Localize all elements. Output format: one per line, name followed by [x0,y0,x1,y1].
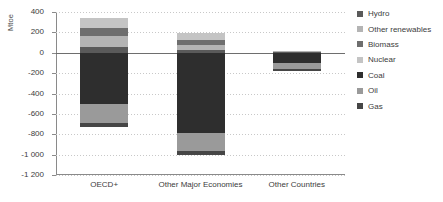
legend-swatch-coal [357,72,363,78]
legend-item-label: Other renewables [368,25,431,34]
x-axis-label-2: Other Countries [249,180,345,189]
legend-item[interactable]: Gas [357,98,443,113]
bar-segment[interactable] [177,151,225,155]
bar-stack[interactable] [80,12,128,175]
bar-segment[interactable] [273,69,321,71]
legend-item-label: Biomass [368,40,399,49]
legend-item[interactable]: Coal [357,68,443,83]
y-axis-tick [52,175,56,176]
bar-segment[interactable] [80,28,128,36]
legend-item-label: Gas [368,102,383,111]
y-axis-tick-label: -600 [28,110,44,118]
legend-item[interactable]: Hydro [357,6,443,21]
plot-area: OECD+Other Major EconomiesOther Countrie… [56,12,345,175]
chart-legend: HydroOther renewablesBiomassNuclearCoalO… [357,6,443,114]
bar-segment[interactable] [177,40,225,45]
bar-segment[interactable] [80,36,128,47]
bar-segment[interactable] [177,133,225,150]
legend-swatch-nuclear [357,57,363,63]
legend-item-label: Nuclear [368,55,396,64]
bar-segment[interactable] [80,123,128,127]
bar-segment[interactable] [177,45,225,51]
legend-item-label: Coal [368,71,384,80]
y-axis-tick [52,12,56,13]
y-axis-tick [52,114,56,115]
y-axis-tick-label: 200 [31,28,44,36]
y-axis-tick-label: -800 [28,130,44,138]
y-axis-tick-label: -1 000 [21,151,44,159]
bar-segment[interactable] [273,53,321,63]
y-axis-tick-label: -400 [28,90,44,98]
legend-swatch-oil [357,88,363,94]
bar-stack[interactable] [177,12,225,175]
y-axis-tick [52,134,56,135]
bar-segment[interactable] [80,104,128,123]
y-axis-tick [52,32,56,33]
bar-segment[interactable] [273,51,321,52]
legend-item-label: Oil [368,86,378,95]
y-axis-tick-label: -200 [28,69,44,77]
legend-swatch-other-renewables [357,26,363,32]
gridline [56,175,345,176]
legend-swatch-biomass [357,41,363,47]
bar-segment[interactable] [80,53,128,104]
legend-swatch-hydro [357,11,363,17]
legend-item-label: Hydro [368,9,389,18]
legend-swatch-gas [357,103,363,109]
legend-item[interactable]: Oil [357,83,443,98]
y-axis-tick [52,73,56,74]
legend-item[interactable]: Nuclear [357,52,443,67]
bar-segment[interactable] [177,33,225,40]
x-axis-label-1: Other Major Economies [152,180,248,189]
y-axis-tick-label: 0 [40,49,44,57]
y-axis-tick-label: 400 [31,8,44,16]
y-axis-tick-label: -1 200 [21,171,44,179]
legend-item[interactable]: Biomass [357,37,443,52]
bar-segment[interactable] [80,18,128,28]
y-axis-tick [52,94,56,95]
bar-segment[interactable] [177,53,225,133]
y-axis-tick-labels: 4002000-200-400-600-800-1 000-1 200 [0,12,52,175]
x-axis-label-0: OECD+ [56,180,152,189]
bar-stack[interactable] [273,12,321,175]
y-axis-tick [52,155,56,156]
legend-item[interactable]: Other renewables [357,21,443,36]
chart-container: Mtoe 4002000-200-400-600-800-1 000-1 200… [0,0,443,202]
